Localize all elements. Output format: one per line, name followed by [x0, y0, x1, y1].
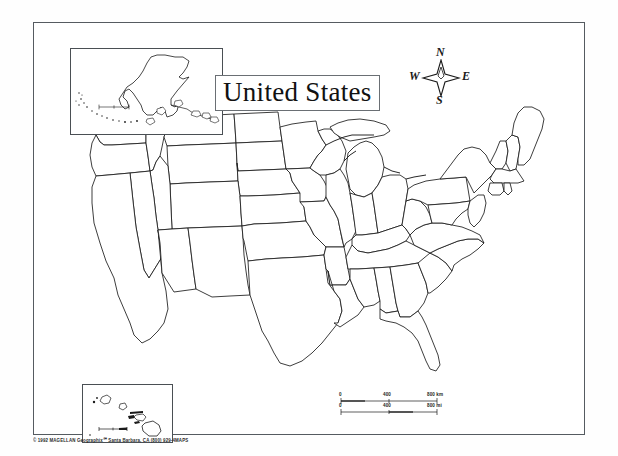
scale-km-mid-label: 400 — [383, 392, 391, 397]
scale-mi-end-label: 800 mi — [427, 403, 442, 408]
map-title-box: United States — [215, 75, 380, 111]
scale-km-end-label: 800 km — [427, 392, 443, 397]
main-scale-bar: 0 400 800 km 0 400 800 mi — [337, 392, 447, 422]
map-page: United States N S W E — [0, 0, 618, 456]
compass-west-label: W — [409, 69, 420, 84]
copyright-credit: © 1992 MAGELLAN Geographix℠ Santa Barbar… — [33, 437, 188, 443]
page-title: United States — [223, 77, 372, 107]
compass-needle-icon — [421, 59, 461, 97]
compass-east-label: E — [462, 69, 470, 84]
alaska-inset — [70, 48, 223, 135]
compass-rose: N S W E — [405, 45, 475, 109]
hawaii-inset — [82, 384, 173, 443]
scale-mi-start-label: 0 — [339, 403, 342, 408]
hawaii-outline — [83, 385, 172, 442]
map-frame: United States N S W E — [33, 22, 585, 435]
scale-mi-mid-label: 400 — [383, 403, 391, 408]
alaska-outline — [71, 49, 222, 134]
compass-north-label: N — [436, 45, 445, 60]
state-boundaries — [90, 107, 544, 371]
scale-km-start-label: 0 — [339, 392, 342, 397]
